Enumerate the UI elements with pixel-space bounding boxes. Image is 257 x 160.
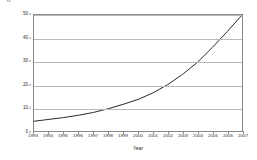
y-tick-label: 50	[23, 12, 28, 17]
y-tick-mark	[29, 61, 31, 62]
x-tick-label: 2000	[133, 134, 143, 138]
x-tick-label: 2007	[238, 134, 248, 138]
x-tick-label: 1996	[73, 134, 83, 138]
x-tick-mark	[108, 131, 109, 134]
x-tick-mark	[213, 131, 214, 134]
x-tick-label: 2001	[148, 134, 158, 138]
x-tick-mark	[78, 131, 79, 134]
y-axis-tick-labels: 01020304050	[0, 14, 31, 132]
y-tick-mark	[29, 108, 31, 109]
x-tick-mark	[93, 131, 94, 134]
x-tick-label: 1994	[43, 134, 53, 138]
x-tick-label: 1997	[88, 134, 98, 138]
x-tick-mark	[228, 131, 229, 134]
gridline	[34, 109, 242, 110]
gridline	[34, 62, 242, 63]
line-series	[34, 15, 242, 131]
y-tick-mark	[29, 37, 31, 38]
x-tick-label: 2005	[208, 134, 218, 138]
x-tick-mark	[48, 131, 49, 134]
x-tick-label: 1995	[58, 134, 68, 138]
y-tick-mark	[29, 84, 31, 85]
x-tick-mark	[183, 131, 184, 134]
gridline	[34, 15, 242, 16]
x-tick-mark	[198, 131, 199, 134]
x-tick-label: 1999	[118, 134, 128, 138]
x-tick-label: 2003	[178, 134, 188, 138]
y-tick-label: 20	[23, 83, 28, 88]
y-tick-label: 10	[23, 106, 28, 111]
plot-area	[33, 14, 243, 132]
x-tick-mark	[153, 131, 154, 134]
x-tick-mark	[138, 131, 139, 134]
gridline	[34, 39, 242, 40]
x-tick-mark	[63, 131, 64, 134]
x-tick-mark	[168, 131, 169, 134]
x-tick-label: 2002	[163, 134, 173, 138]
x-tick-label: 1993	[28, 134, 38, 138]
x-tick-label: 2006	[223, 134, 233, 138]
x-axis-tick-labels: 1993199419951996199719981999200020012002…	[33, 134, 243, 143]
y-tick-label: 40	[23, 35, 28, 40]
prevalence-line	[34, 15, 242, 121]
y-tick-mark	[29, 14, 31, 15]
chart-figure: Prevalence (per 10 000) 01020304050 1993…	[0, 0, 257, 160]
y-tick-label: 30	[23, 59, 28, 64]
x-tick-mark	[33, 131, 34, 134]
x-axis-title: Year	[33, 145, 243, 151]
x-tick-mark	[123, 131, 124, 134]
x-tick-label: 1998	[103, 134, 113, 138]
gridline	[34, 86, 242, 87]
x-tick-mark	[243, 131, 244, 134]
x-tick-label: 2004	[193, 134, 203, 138]
